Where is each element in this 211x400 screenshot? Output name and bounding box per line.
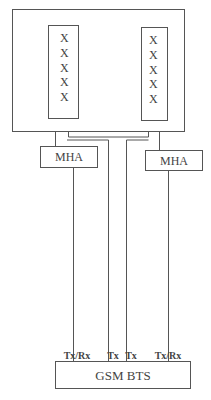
antenna-element: X [60, 75, 69, 89]
antenna-element: X [149, 77, 158, 91]
port-label-tx-rx-left: Tx/Rx [64, 350, 91, 361]
antenna-system-diagram: X X X X X X X X X X MHA MHA Tx/Rx Tx Tx … [0, 0, 211, 400]
feeder-tx-2 [127, 140, 149, 361]
antenna-element: X [149, 92, 158, 106]
antenna-element: X [60, 90, 69, 104]
antenna-element: X [149, 63, 158, 77]
antenna-element: X [60, 31, 69, 45]
antenna-elements-right: X X X X X [149, 33, 158, 106]
feeder-lines [56, 131, 169, 361]
mha-right-label: MHA [160, 154, 188, 168]
port-label-tx-1: Tx [107, 350, 119, 361]
antenna-element: X [60, 61, 69, 75]
port-label-tx-2: Tx [125, 350, 137, 361]
antenna-element: X [149, 33, 158, 47]
antenna-elements-left: X X X X X [60, 31, 69, 104]
port-label-tx-rx-right: Tx/Rx [155, 350, 182, 361]
gsm-bts-label: GSM BTS [95, 368, 150, 383]
mha-left-label: MHA [55, 150, 83, 164]
antenna-element: X [60, 46, 69, 60]
antenna-element: X [149, 48, 158, 62]
